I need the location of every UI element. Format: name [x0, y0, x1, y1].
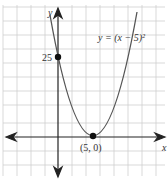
y-axis-label: y	[47, 7, 53, 18]
y-intercept-point	[55, 54, 61, 60]
x-axis-label: x	[161, 142, 167, 153]
equation-label: y = (x − 5)²	[97, 32, 146, 44]
vertex-point	[90, 133, 96, 139]
parabola-chart: y x y = (x − 5)² 25 (5, 0)	[0, 0, 168, 183]
vertex-label: (5, 0)	[80, 142, 102, 154]
x-axis	[6, 133, 165, 141]
parabola-curve	[50, 12, 137, 136]
y-axis	[54, 8, 62, 177]
y-intercept-label: 25	[42, 52, 52, 63]
